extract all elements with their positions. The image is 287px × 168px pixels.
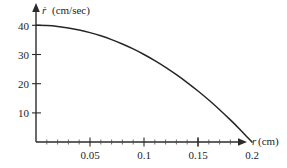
y-tick-label-10: 10 bbox=[18, 107, 30, 119]
x-axis-title-units: (cm) bbox=[258, 135, 279, 148]
y-tick-label-20: 20 bbox=[18, 78, 30, 90]
y-axis-title-variable: ṙ bbox=[42, 4, 47, 16]
x-tick-label-0.05: 0.05 bbox=[80, 149, 100, 161]
x-axis-title-variable: r bbox=[252, 135, 257, 147]
x-tick-label-0.2: 0.2 bbox=[245, 149, 259, 161]
y-tick-label-30: 30 bbox=[18, 49, 30, 61]
chart-svg: 40 30 20 10 bbox=[0, 0, 287, 168]
y-tick-label-40: 40 bbox=[18, 20, 30, 32]
chart-figure: 40 30 20 10 bbox=[0, 0, 287, 168]
x-tick-label-0.1: 0.1 bbox=[137, 149, 151, 161]
x-axis-title: r (cm) bbox=[252, 135, 279, 148]
y-axis-title-units: (cm/sec) bbox=[52, 4, 90, 17]
x-tick-label-0.15: 0.15 bbox=[188, 149, 208, 161]
